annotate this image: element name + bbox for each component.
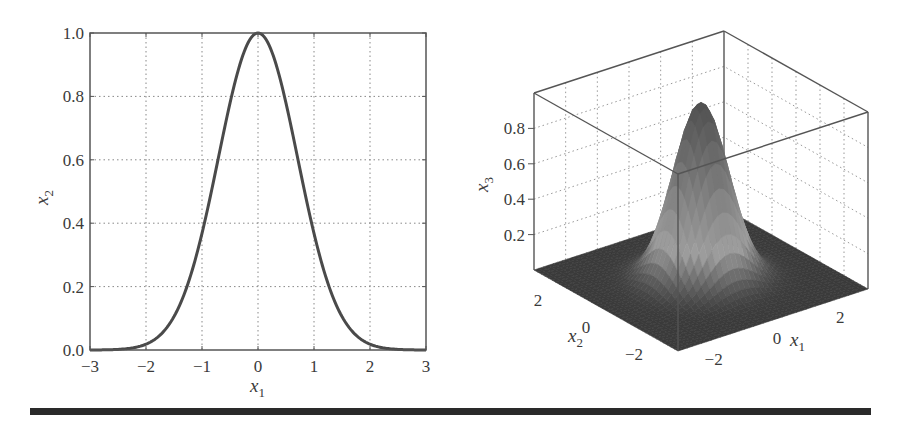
y-tick-label: 0.0 [63,341,84,360]
y-tick-label: 0.6 [63,151,84,170]
y-axis-ticks: 0.00.20.40.60.81.0 [63,24,426,360]
x2-tick-label: −2 [625,345,643,364]
z-tick-label: 0.4 [504,190,526,209]
grid-lines [90,33,426,350]
y-tick-label: 0.8 [63,87,84,106]
figure: −3−2−10123 0.00.20.40.60.81.0 x1 x2 0.20… [0,0,904,423]
y-tick-label: 0.2 [63,278,84,297]
x-tick-label: −1 [193,357,211,376]
x2-tick-label: 0 [582,318,591,337]
box-edge [534,93,678,174]
x1-tick-label: 2 [836,308,845,327]
x-axis-label: x1 [249,375,265,400]
y-axis-label: x2 [31,190,56,206]
box-edge [534,31,724,93]
z-tick-label: 0.6 [504,155,525,174]
surface-chart-panel: 0.20.40.60.8−202−202 x3 x2 x1 [471,31,868,369]
gaussian-surface [534,103,868,352]
y-tick-label: 1.0 [63,24,84,43]
y-tick-label: 0.4 [63,214,85,233]
line-chart-panel: −3−2−10123 0.00.20.40.60.81.0 x1 x2 [31,24,430,400]
x-tick-label: 3 [422,357,431,376]
x-axis-ticks: −3−2−10123 [81,33,430,376]
z-tick-label: 0.8 [504,119,525,138]
x-tick-label: −2 [137,357,155,376]
x1-axis-label: x1 [789,329,805,354]
x-tick-label: 1 [310,357,319,376]
x-tick-label: 0 [254,357,263,376]
x2-tick-label: 2 [534,291,543,310]
z-tick-label: 0.2 [504,226,525,245]
z-axis-label: x3 [471,177,496,193]
x1-tick-label: 0 [773,329,782,348]
x2-axis-label: x2 [567,325,583,350]
x1-tick-label: −2 [705,350,723,369]
x-tick-label: 2 [366,357,375,376]
section-divider-rule [30,408,871,415]
